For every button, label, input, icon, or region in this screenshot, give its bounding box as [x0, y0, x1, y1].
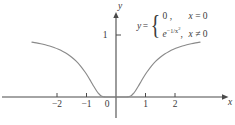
x-tick-label-0: 0 [101, 99, 113, 109]
equation-case-row-1: 0 , x = 0 [163, 11, 208, 23]
equation-equals-sign: = [143, 21, 148, 31]
y-axis-arrow [113, 12, 118, 18]
equation-annotation: y = { 0 , x = 0 e−1/x2, x ≠ 0 [137, 11, 208, 40]
x-tick-label-2: 2 [169, 99, 181, 109]
x-tick-label-1: 1 [140, 99, 152, 109]
case-1-value: 0 , [163, 11, 189, 23]
x-tick-label--1: −1 [80, 99, 94, 109]
y-tick-label-1: 1 [100, 30, 110, 40]
y-axis-label: y [118, 1, 122, 11]
case-1-condition: x = 0 [189, 11, 208, 23]
equation-brace: { [151, 12, 161, 39]
equation-cases: 0 , x = 0 e−1/x2, x ≠ 0 [163, 11, 208, 40]
x-tick-label--2: −2 [50, 99, 64, 109]
case-2-value-exponent: −1/x2 [167, 27, 181, 34]
case-1-condition-rest: = 0 [193, 11, 208, 21]
case-2-exponent-main: −1/x [167, 27, 178, 34]
equation-case-row-2: e−1/x2, x ≠ 0 [163, 23, 208, 41]
figure-container: −2 −1 0 1 2 1 x y y = { 0 , x = 0 e−1/x2… [0, 0, 235, 125]
case-2-condition: x ≠ 0 [189, 29, 208, 41]
x-axis-label: x [228, 97, 232, 107]
case-2-value: e−1/x2, [163, 23, 189, 41]
equation-lhs: y [137, 21, 141, 31]
case-2-condition-rest: ≠ 0 [193, 29, 208, 39]
case-2-value-tail: , [180, 29, 182, 39]
